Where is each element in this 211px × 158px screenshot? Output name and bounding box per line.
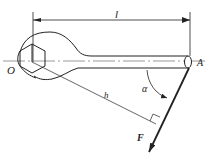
dimension-l: [33, 12, 190, 62]
force-arrow: [149, 68, 189, 152]
moment-arm-line: [32, 62, 156, 124]
wrench-outline: [18, 32, 188, 80]
angle-label: α: [142, 83, 148, 94]
wrench-moment-diagram: l O A α h F: [0, 0, 211, 158]
pivot-label-o: O: [7, 64, 15, 76]
force-label: F: [136, 132, 144, 143]
length-label: l: [115, 8, 118, 20]
angle-arc: [147, 70, 167, 98]
handle-end: [185, 56, 192, 68]
end-label-a: A: [196, 57, 204, 68]
moment-arm-label: h: [104, 90, 109, 100]
right-angle-marker: [150, 114, 160, 121]
